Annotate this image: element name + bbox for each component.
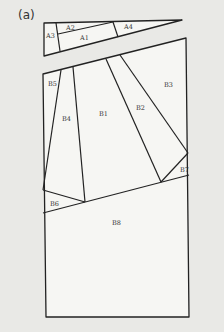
label-b8: B8	[112, 219, 121, 227]
label-b4: B4	[62, 115, 71, 123]
pattern-diagram: A3 A2 A1 A4 B5 B4 B1 B2 B3 B7 B6 B8	[0, 0, 224, 332]
label-a2: A2	[65, 24, 75, 32]
label-b7: B7	[180, 166, 189, 174]
label-b2: B2	[136, 104, 145, 112]
label-a4: A4	[123, 23, 133, 31]
piece-group-b: B5 B4 B1 B2 B3 B7 B6 B8	[43, 38, 189, 317]
label-a3: A3	[45, 32, 55, 40]
label-a1: A1	[79, 34, 89, 42]
label-b1: B1	[99, 110, 108, 118]
label-b3: B3	[164, 81, 173, 89]
label-b5: B5	[48, 80, 57, 88]
label-b6: B6	[50, 200, 59, 208]
main-b-outline	[43, 38, 189, 317]
